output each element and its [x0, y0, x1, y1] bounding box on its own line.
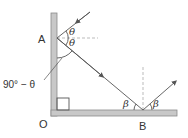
beta-arc-left — [134, 104, 136, 110]
reflection-diagram: A O B θ θ 90° − θ β β — [0, 0, 188, 138]
label-theta-lower: θ — [69, 37, 75, 48]
label-complement: 90° − θ — [3, 79, 36, 90]
label-beta-right: β — [152, 98, 159, 109]
horizontal-mirror — [51, 110, 177, 116]
label-beta-left: β — [122, 98, 129, 109]
vertical-mirror — [51, 13, 57, 116]
final-reflected-ray — [143, 82, 175, 110]
beta-arc-right — [150, 104, 152, 110]
label-O: O — [39, 118, 48, 130]
label-theta-upper: θ — [69, 26, 75, 37]
incident-arrow — [77, 12, 90, 22]
label-A: A — [38, 33, 46, 45]
complement-arc — [57, 51, 72, 58]
label-B: B — [139, 120, 146, 132]
right-angle-marker — [57, 98, 69, 110]
